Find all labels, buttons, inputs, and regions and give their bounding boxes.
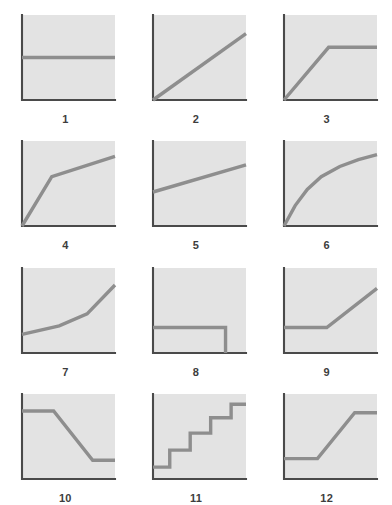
chart-svg xyxy=(144,13,248,109)
chart-svg xyxy=(275,139,379,235)
panel-cell: 11 xyxy=(131,379,262,505)
panel-caption-7: 7 xyxy=(62,366,68,379)
plot-background xyxy=(22,141,115,226)
plot-background xyxy=(284,15,377,100)
panel-caption-10: 10 xyxy=(59,492,72,505)
panel-caption-9: 9 xyxy=(324,366,330,379)
chart-panel-5 xyxy=(144,139,248,235)
chart-svg xyxy=(144,139,248,235)
panel-cell: 2 xyxy=(131,0,262,126)
chart-panel-2 xyxy=(144,13,248,109)
panel-caption-11: 11 xyxy=(190,492,202,505)
panel-caption-6: 6 xyxy=(324,239,330,252)
chart-panel-10 xyxy=(13,392,117,488)
chart-svg xyxy=(13,266,117,362)
panel-cell: 5 xyxy=(131,126,262,252)
panel-cell: 8 xyxy=(131,253,262,379)
chart-panel-3 xyxy=(275,13,379,109)
chart-panel-11 xyxy=(144,392,248,488)
panel-cell: 3 xyxy=(261,0,392,126)
chart-svg xyxy=(275,13,379,109)
chart-panel-8 xyxy=(144,266,248,362)
plot-background xyxy=(22,268,115,353)
plot-background xyxy=(284,394,377,479)
plot-background xyxy=(153,268,246,353)
plot-background xyxy=(153,141,246,226)
panel-cell: 12 xyxy=(261,379,392,505)
chart-svg xyxy=(13,13,117,109)
chart-panel-7 xyxy=(13,266,117,362)
chart-svg xyxy=(13,392,117,488)
panel-caption-5: 5 xyxy=(193,239,199,252)
chart-svg xyxy=(13,139,117,235)
plot-background xyxy=(284,268,377,353)
chart-svg xyxy=(144,392,248,488)
panel-caption-3: 3 xyxy=(324,113,330,126)
chart-panel-9 xyxy=(275,266,379,362)
panel-cell: 10 xyxy=(0,379,131,505)
chart-svg xyxy=(275,266,379,362)
panel-cell: 6 xyxy=(261,126,392,252)
panel-caption-12: 12 xyxy=(320,492,333,505)
panel-cell: 9 xyxy=(261,253,392,379)
panel-grid: 123456789101112 xyxy=(0,0,392,505)
chart-panel-6 xyxy=(275,139,379,235)
chart-svg xyxy=(144,266,248,362)
panel-caption-8: 8 xyxy=(193,366,199,379)
panel-caption-4: 4 xyxy=(62,239,68,252)
plot-background xyxy=(153,15,246,100)
panel-caption-2: 2 xyxy=(193,113,199,126)
plot-background xyxy=(284,141,377,226)
chart-panel-1 xyxy=(13,13,117,109)
panel-caption-1: 1 xyxy=(62,113,68,126)
chart-panel-4 xyxy=(13,139,117,235)
plot-background xyxy=(22,394,115,479)
chart-panel-12 xyxy=(275,392,379,488)
panel-cell: 7 xyxy=(0,253,131,379)
chart-svg xyxy=(275,392,379,488)
panel-cell: 1 xyxy=(0,0,131,126)
panel-cell: 4 xyxy=(0,126,131,252)
